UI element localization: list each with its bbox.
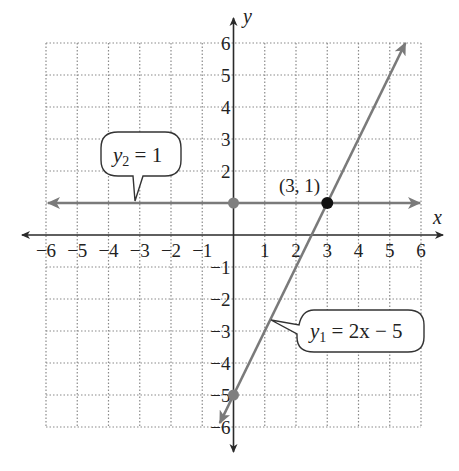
y-tick-label: 5 [221,65,231,86]
x-tick-label: 1 [260,240,270,261]
y-tick-label: −2 [210,289,230,310]
marked-point [228,390,239,401]
intersection-point [321,197,333,209]
y-tick-label: 6 [221,33,231,54]
x-tick-label: −2 [161,240,181,261]
x-tick-label: 6 [416,240,426,261]
x-tick-label: −6 [36,240,56,261]
marked-point [228,198,239,209]
x-tick-label: −4 [98,240,119,261]
x-tick-label: 5 [385,240,395,261]
x-tick-label: 4 [354,240,364,261]
x-tick-label: −5 [67,240,87,261]
y-tick-label: −4 [210,353,231,374]
y-tick-label: 3 [221,129,231,150]
axes: x y [22,5,443,452]
callout-y2: y2 = 1 [101,132,181,201]
y-tick-label: 4 [221,97,231,118]
callout-y2-label: y2 = 1 [111,143,162,169]
callout-y1: y1 = 2x − 5 [271,310,424,352]
x-axis-label: x [432,206,442,228]
y-tick-label: −5 [210,385,230,406]
y-tick-label: −3 [210,321,230,342]
x-tick-label: 3 [323,240,333,261]
intersection-label: (3, 1) [279,175,320,197]
graph: x y −6−5−4−3−2−112345665432−1−2−3−4−5−6 … [0,0,459,471]
y-axis-label: y [241,5,252,28]
x-tick-label: −3 [130,240,150,261]
y-tick-label: −1 [210,257,230,278]
y-tick-label: 2 [221,161,231,182]
